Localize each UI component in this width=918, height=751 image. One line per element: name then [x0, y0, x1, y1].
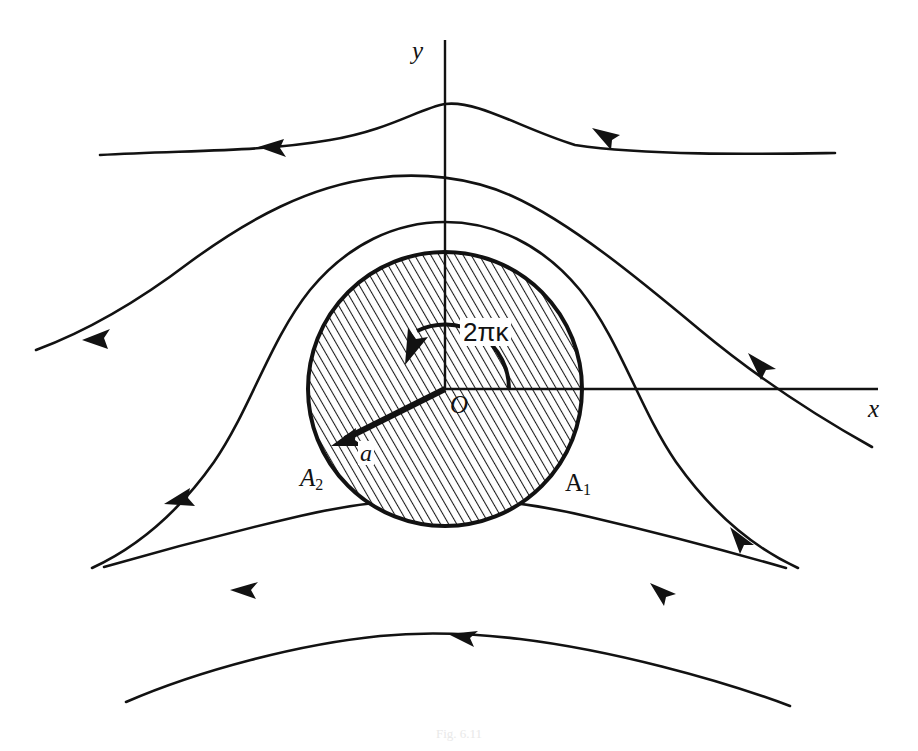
streamline-figure: y x O a 2πκ A2 A1 Fig. 6.11	[0, 0, 918, 751]
flow-arrow-icon	[82, 329, 110, 349]
circulation-label: 2πκ	[460, 318, 511, 346]
stagnation-a1-subscript: 1	[583, 481, 591, 498]
stagnation-point-label-a1: A1	[565, 470, 591, 498]
streamline-top-outer	[100, 104, 835, 155]
origin-label: O	[450, 392, 468, 417]
flow-arrow-icon	[650, 583, 676, 606]
streamline-bottom-outer	[126, 634, 790, 706]
stagnation-point-label-a2: A2	[300, 465, 323, 493]
flow-arrow-icon	[230, 582, 258, 599]
figure-canvas	[0, 0, 918, 751]
x-axis-label: x	[868, 396, 879, 421]
stagnation-a2-subscript: 2	[315, 476, 323, 493]
radius-label: a	[358, 441, 374, 465]
figure-caption: Fig. 6.11	[0, 726, 918, 742]
stagnation-a1-letter: A	[565, 469, 583, 496]
flow-arrow-icon	[258, 139, 286, 157]
flow-arrow-icon	[748, 353, 776, 380]
y-axis-label: y	[412, 38, 423, 63]
stagnation-a2-letter: A	[300, 464, 315, 491]
